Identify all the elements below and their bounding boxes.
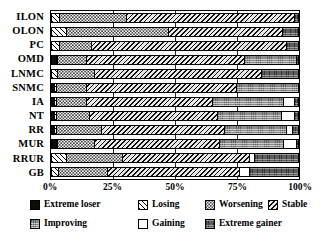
bar-segment-stable[interactable]	[94, 140, 219, 148]
bar-segment-extreme-gainer[interactable]	[296, 140, 298, 148]
bar-segment-stable[interactable]	[126, 14, 295, 22]
bar-segment-extreme-gainer[interactable]	[294, 112, 298, 120]
swatch-backslash-hatch-icon	[268, 200, 278, 210]
bar-segment-extreme-gainer[interactable]	[282, 28, 298, 36]
legend-item-worsening[interactable]: Worsening	[205, 196, 263, 213]
bar-segment-improving[interactable]	[244, 56, 296, 64]
bar-row-slot	[51, 67, 299, 81]
stacked-bar-olon[interactable]	[51, 27, 299, 37]
stacked-bar-mur[interactable]	[51, 139, 299, 149]
bar-segment-extreme-gainer[interactable]	[294, 98, 298, 106]
bar-segment-improving[interactable]	[236, 84, 298, 92]
legend-item-extreme-gainer[interactable]: Extreme gainer	[205, 215, 282, 232]
bar-segment-improving[interactable]	[224, 126, 286, 134]
bar-segment-losing[interactable]	[52, 28, 66, 36]
bar-segment-improving[interactable]	[219, 140, 283, 148]
y-axis-label-mur: MUR	[0, 138, 48, 152]
bar-segment-stable[interactable]	[122, 154, 249, 162]
bar-segment-worsening[interactable]	[56, 112, 89, 120]
bar-segment-gaining[interactable]	[281, 112, 295, 120]
stacked-bar-ilon[interactable]	[51, 13, 299, 23]
bar-segment-extreme-gainer[interactable]	[286, 42, 298, 50]
stacked-bar-omd[interactable]	[51, 55, 299, 65]
bar-row-slot	[51, 95, 299, 109]
bar-row-slot	[51, 39, 299, 53]
bar-segment-stable[interactable]	[86, 56, 243, 64]
legend-item-improving[interactable]: Improving	[30, 215, 87, 232]
bar-segment-stable[interactable]	[94, 70, 261, 78]
legend-row-primary: Extreme loserLosingWorseningStable	[0, 196, 322, 213]
legend-item-losing[interactable]: Losing	[138, 196, 179, 213]
stacked-bar-lnmc[interactable]	[51, 69, 299, 79]
swatch-diagonal-hatch-icon	[138, 200, 148, 210]
bar-segment-extreme-gainer[interactable]	[249, 168, 298, 176]
bar-row-slot	[51, 25, 299, 39]
bar-segment-losing[interactable]	[52, 42, 59, 50]
legend-item-stable[interactable]: Stable	[268, 196, 307, 213]
legend-label: Losing	[152, 200, 179, 210]
bar-segment-extreme-gainer[interactable]	[294, 14, 298, 22]
bar-segment-improving[interactable]	[217, 112, 281, 120]
bar-segment-losing[interactable]	[52, 154, 66, 162]
x-tick-75: 75%	[228, 182, 247, 192]
bar-segment-worsening[interactable]	[57, 56, 87, 64]
bar-segment-extreme-gainer[interactable]	[261, 70, 298, 78]
stacked-bar-nt[interactable]	[51, 111, 299, 121]
bar-segment-extreme-gainer[interactable]	[254, 154, 298, 162]
bar-segment-stable[interactable]	[89, 112, 217, 120]
bar-segment-worsening[interactable]	[56, 126, 102, 134]
bar-segment-worsening[interactable]	[57, 140, 94, 148]
bar-segment-stable[interactable]	[91, 42, 285, 50]
swatch-solid-black-icon	[30, 200, 40, 210]
bar-segment-stable[interactable]	[86, 84, 236, 92]
y-axis-label-pc: PC	[0, 38, 48, 52]
bar-segment-stable[interactable]	[101, 126, 224, 134]
bar-segment-stable[interactable]	[86, 98, 211, 106]
bar-segment-losing[interactable]	[52, 14, 59, 22]
bar-segment-worsening[interactable]	[57, 70, 94, 78]
bar-row-slot	[51, 165, 299, 179]
legend-label: Extreme loser	[44, 200, 101, 210]
bar-rows	[51, 11, 299, 179]
swatch-gray-texture-icon	[30, 219, 40, 229]
plot-region: ILONOLONPCOMDLNMCSNMCIANTRRMURRRURGB 0%2…	[0, 0, 322, 188]
swatch-white-icon	[138, 219, 148, 229]
y-axis-label-snmc: SNMC	[0, 81, 48, 95]
bar-segment-stable[interactable]	[107, 168, 239, 176]
legend-item-gaining[interactable]: Gaining	[138, 215, 185, 232]
y-axis-label-rrur: RRUR	[0, 152, 48, 166]
bar-segment-stable[interactable]	[168, 28, 282, 36]
bar-segment-worsening[interactable]	[58, 168, 107, 176]
stacked-bar-snmc[interactable]	[51, 83, 299, 93]
bar-segment-extreme-gainer[interactable]	[292, 126, 298, 134]
bar-segment-worsening[interactable]	[66, 28, 168, 36]
bar-segment-improving[interactable]	[212, 98, 283, 106]
bar-segment-worsening[interactable]	[56, 84, 87, 92]
y-axis-label-olon: OLON	[0, 24, 48, 38]
legend-item-extreme-loser[interactable]: Extreme loser	[30, 196, 101, 213]
stacked-bar-rrur[interactable]	[51, 153, 299, 163]
y-axis-label-gb: GB	[0, 166, 48, 180]
bar-row-slot	[51, 109, 299, 123]
bar-row-slot	[51, 123, 299, 137]
stacked-bar-ia[interactable]	[51, 97, 299, 107]
legend-label: Extreme gainer	[219, 219, 282, 229]
bar-row-slot	[51, 151, 299, 165]
bar-row-slot	[51, 11, 299, 25]
bar-segment-worsening[interactable]	[59, 42, 91, 50]
bar-segment-extreme-gainer[interactable]	[296, 56, 298, 64]
stacked-bar-gb[interactable]	[51, 167, 299, 177]
bar-segment-worsening[interactable]	[59, 14, 125, 22]
y-axis-label-lnmc: LNMC	[0, 67, 48, 81]
bar-segment-gaining[interactable]	[239, 168, 249, 176]
bar-segment-gaining[interactable]	[283, 98, 294, 106]
legend-label: Worsening	[219, 200, 263, 210]
bar-segment-worsening[interactable]	[56, 98, 87, 106]
bar-segment-worsening[interactable]	[66, 154, 123, 162]
bar-row-slot	[51, 137, 299, 151]
legend-label: Stable	[282, 200, 307, 210]
stacked-bar-pc[interactable]	[51, 41, 299, 51]
stacked-bar-rr[interactable]	[51, 125, 299, 135]
bar-segment-gaining[interactable]	[283, 140, 295, 148]
legend-label: Gaining	[152, 219, 185, 229]
